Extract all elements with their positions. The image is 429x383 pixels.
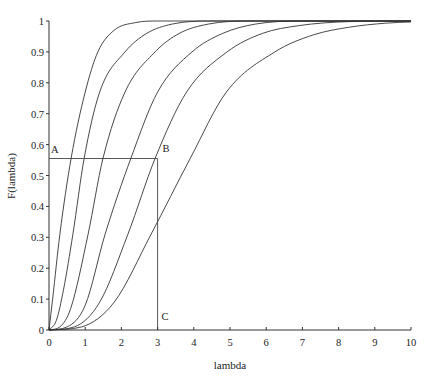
- y-tick-label: 0.9: [31, 47, 44, 58]
- curve-3: [49, 21, 411, 330]
- y-tick-label: 0.4: [31, 201, 45, 212]
- x-tick-label: 1: [83, 337, 88, 348]
- point-label-c: C: [162, 311, 169, 322]
- x-axis-label: lambda: [214, 359, 246, 371]
- y-tick-label: 0.6: [31, 140, 44, 151]
- point-label-b: B: [163, 143, 170, 154]
- y-tick-label: 0.5: [31, 171, 44, 182]
- y-axis-label: F(lambda): [5, 153, 18, 199]
- y-tick-label: 0.1: [31, 294, 44, 305]
- x-tick-label: 5: [227, 337, 232, 348]
- curve-4: [49, 21, 411, 330]
- x-tick-label: 3: [155, 337, 160, 348]
- curve-2: [49, 21, 411, 330]
- x-tick-label: 8: [336, 337, 341, 348]
- cdf-curves: [49, 21, 411, 330]
- x-tick-label: 0: [46, 337, 51, 348]
- y-tick-label: 1: [39, 16, 44, 27]
- x-tick-label: 9: [372, 337, 377, 348]
- y-tick-label: 0.3: [31, 232, 44, 243]
- y-ticks: 00.10.20.30.40.50.60.70.80.91: [31, 16, 49, 336]
- y-tick-label: 0.8: [31, 78, 44, 89]
- x-tick-label: 6: [264, 337, 269, 348]
- x-tick-label: 4: [191, 337, 197, 348]
- curve-6: [49, 22, 411, 330]
- guide-lines: [49, 159, 158, 330]
- x-tick-label: 7: [300, 337, 305, 348]
- y-tick-label: 0: [39, 325, 44, 336]
- x-tick-label: 10: [406, 337, 417, 348]
- axes: [49, 21, 411, 330]
- curve-1: [49, 21, 411, 330]
- cdf-chart: 012345678910 00.10.20.30.40.50.60.70.80.…: [0, 0, 429, 383]
- y-tick-label: 0.7: [31, 109, 44, 120]
- point-label-a: A: [51, 144, 59, 155]
- x-tick-label: 2: [119, 337, 124, 348]
- y-tick-label: 0.2: [31, 263, 44, 274]
- curve-5: [49, 21, 411, 330]
